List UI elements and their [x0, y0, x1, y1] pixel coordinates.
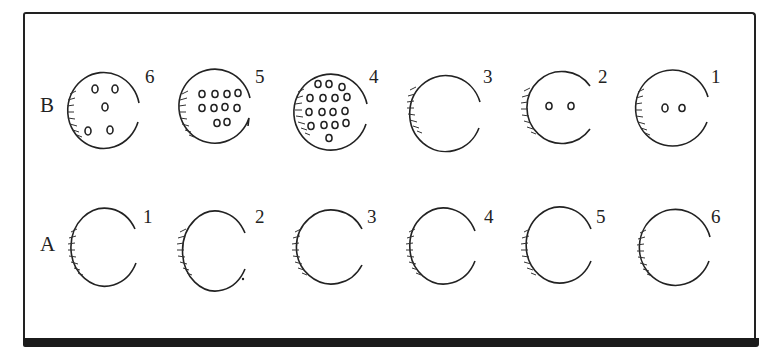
disc-b-4 — [294, 74, 367, 150]
disc-a-2 — [177, 211, 245, 291]
ink-dot — [242, 278, 244, 280]
disc-b-3 — [407, 76, 480, 152]
disc-b-6 — [67, 72, 139, 148]
disc-b-5 — [179, 69, 250, 143]
disc-a-3 — [292, 210, 362, 284]
disc-a-1 — [68, 208, 136, 286]
discs-layer — [0, 0, 778, 355]
disc-b-2 — [521, 72, 590, 144]
disc-b-1 — [635, 70, 708, 146]
illustration: B A 6 5 4 3 2 1 1 2 3 4 5 6 — [0, 0, 778, 355]
disc-a-5 — [521, 207, 591, 283]
disc-a-4 — [406, 208, 475, 284]
disc-a-6 — [637, 209, 710, 285]
